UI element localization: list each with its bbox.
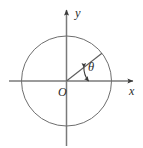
figure-canvas: y x O θ xyxy=(0,0,143,148)
origin-label: O xyxy=(58,85,67,99)
angle-label-theta: θ xyxy=(88,60,94,74)
x-axis-label: x xyxy=(128,84,135,98)
unit-circle-figure: y x O θ xyxy=(0,0,143,148)
y-axis-label: y xyxy=(73,6,81,20)
